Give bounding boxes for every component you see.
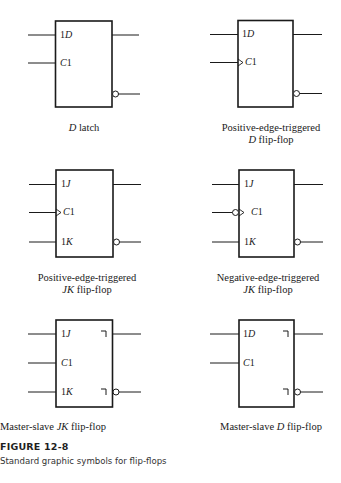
pin-number: 1: [252, 56, 257, 67]
symbol-title-positive-edge-jk: Positive-edge-triggered JK flip-flop: [22, 272, 152, 296]
pin-name: C: [245, 56, 252, 67]
symbol-title-master-slave-jk: Master-slave JK flip-flop: [0, 421, 140, 433]
pin-label-clock: C1: [243, 358, 255, 368]
title-text: flip-flop: [68, 421, 106, 432]
pin-label-d: 1D: [242, 29, 254, 39]
inversion-bubble-icon: [113, 389, 119, 395]
pin-number: 1: [258, 206, 263, 217]
title-text: Master-slave: [0, 421, 57, 432]
inversion-bubble-icon: [294, 91, 300, 97]
pin-label-k: 1K: [61, 387, 73, 397]
pin-number: 1: [250, 357, 255, 368]
postponed-output-icon: [101, 389, 106, 395]
symbol-positive-edge-d-flip-flop: [210, 21, 322, 108]
pin-label-j: 1J: [61, 179, 70, 189]
pin-name: J: [66, 178, 70, 189]
symbol-title-master-slave-d: Master-slave D flip-flop: [206, 421, 336, 433]
title-italic: D: [248, 134, 256, 145]
figure-number: FIGURE 12-8: [0, 441, 69, 452]
figure-caption: Standard graphic symbols for flip-flops: [0, 456, 167, 466]
title-italic: JK: [57, 421, 69, 432]
pin-name: C: [61, 357, 68, 368]
inversion-bubble-icon: [114, 239, 120, 245]
pin-label-clock: C1: [60, 58, 72, 68]
pin-number: 1: [70, 206, 75, 217]
pin-label-d: 1D: [60, 30, 72, 40]
title-line-1: Positive-edge-triggered: [22, 272, 152, 284]
title-text: flip-flop: [74, 284, 112, 295]
inversion-bubble-icon: [113, 91, 119, 97]
pin-label-clock: C1: [251, 207, 263, 217]
title-line-2: JK flip-flop: [200, 284, 336, 296]
symbol-title-negative-edge-jk: Negative-edge-triggered JK flip-flop: [200, 272, 336, 296]
pin-name: C: [60, 57, 67, 68]
title-text: Master-slave: [220, 421, 277, 432]
symbol-d-latch: [28, 21, 140, 107]
symbol-master-slave-jk-flip-flop: [28, 320, 141, 407]
pin-label-j: 1J: [244, 179, 253, 189]
postponed-output-icon: [283, 331, 288, 337]
title-text: latch: [76, 122, 99, 133]
pin-name: D: [248, 328, 255, 339]
postponed-output-icon: [101, 331, 106, 337]
flip-flop-symbols-diagram: [0, 0, 341, 483]
pin-label-clock: C1: [63, 207, 75, 217]
symbol-positive-edge-jk-flip-flop: [29, 170, 141, 257]
pin-name: C: [63, 206, 70, 217]
pin-name: D: [247, 28, 254, 39]
pin-number: 1: [67, 57, 72, 68]
pin-name: D: [65, 29, 72, 40]
inversion-bubble-icon: [295, 239, 301, 245]
pin-label-j: 1J: [61, 329, 70, 339]
title-italic: JK: [243, 284, 255, 295]
pin-name: J: [66, 328, 70, 339]
pin-label-d: 1D: [243, 329, 255, 339]
pin-name: C: [243, 357, 250, 368]
title-text: flip-flop: [256, 134, 294, 145]
pin-name: C: [251, 206, 258, 217]
title-italic: JK: [62, 284, 74, 295]
title-text: flip-flop: [284, 421, 322, 432]
title-line-1: Negative-edge-triggered: [200, 272, 336, 284]
pin-label-clock: C1: [245, 57, 257, 67]
title-line-2: JK flip-flop: [22, 284, 152, 296]
symbol-title-positive-edge-d: Positive-edge-triggered D flip-flop: [206, 122, 336, 146]
pin-number: 1: [68, 357, 73, 368]
symbol-master-slave-d-flip-flop: [210, 320, 323, 407]
pin-label-k: 1K: [244, 237, 256, 247]
title-line-2: D flip-flop: [206, 134, 336, 146]
symbol-negative-edge-jk-flip-flop: [212, 170, 323, 257]
postponed-output-icon: [283, 389, 288, 395]
inversion-bubble-icon: [233, 210, 239, 216]
title-line-1: Positive-edge-triggered: [206, 122, 336, 134]
pin-name: K: [249, 236, 256, 247]
pin-name: K: [66, 386, 73, 397]
pin-label-k: 1K: [61, 237, 73, 247]
pin-name: J: [249, 178, 253, 189]
inversion-bubble-icon: [295, 389, 301, 395]
pin-label-clock: C1: [61, 358, 73, 368]
pin-name: K: [66, 236, 73, 247]
title-text: flip-flop: [255, 284, 293, 295]
symbol-title-d-latch: D latch: [34, 122, 134, 134]
